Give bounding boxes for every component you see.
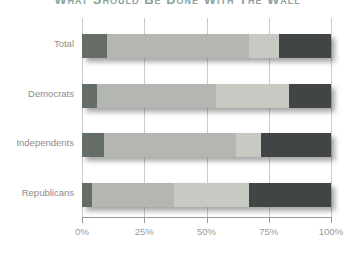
plot-area <box>82 18 331 217</box>
gridline-100% <box>331 18 332 217</box>
axis-tick-0% <box>82 217 83 223</box>
axis-tick-75% <box>269 217 270 223</box>
bar-total-segment-2 <box>107 34 249 58</box>
bar-independents-segment-1 <box>82 133 104 157</box>
category-label-republicans: Republicans <box>0 187 74 198</box>
bar-democrats-segment-4 <box>289 84 331 108</box>
bar-republicans-segment-3 <box>174 183 249 207</box>
chart-title-text: What Should Be Done With The Wall <box>54 0 301 6</box>
bar-independents-segment-4 <box>261 133 331 157</box>
bar-total-segment-1 <box>82 34 107 58</box>
bar-total-segment-4 <box>279 34 331 58</box>
stacked-bar-total <box>82 34 331 58</box>
bar-republicans-segment-4 <box>249 183 331 207</box>
stacked-bar-democrats <box>82 84 331 108</box>
bar-democrats-segment-2 <box>97 84 217 108</box>
tick-label-0%: 0% <box>75 226 89 237</box>
axis-tick-25% <box>144 217 145 223</box>
axis-tick-50% <box>207 217 208 223</box>
bar-democrats-segment-1 <box>82 84 97 108</box>
tick-label-100%: 100% <box>319 226 343 237</box>
tick-label-50%: 50% <box>197 226 216 237</box>
category-label-independents: Independents <box>0 137 74 148</box>
bar-independents-segment-3 <box>236 133 261 157</box>
category-label-total: Total <box>0 38 74 49</box>
bar-republicans-segment-1 <box>82 183 92 207</box>
tick-label-25%: 25% <box>135 226 154 237</box>
axis-tick-100% <box>331 217 332 223</box>
stacked-bar-independents <box>82 133 331 157</box>
chart-canvas: What Should Be Done With The Wall 0%25%5… <box>0 0 355 255</box>
tick-label-75%: 75% <box>259 226 278 237</box>
bar-democrats-segment-3 <box>216 84 288 108</box>
bar-republicans-segment-2 <box>92 183 174 207</box>
chart-title-clipped: What Should Be Done With The Wall <box>0 0 355 6</box>
stacked-bar-republicans <box>82 183 331 207</box>
bar-total-segment-3 <box>249 34 279 58</box>
bar-independents-segment-2 <box>104 133 236 157</box>
category-label-democrats: Democrats <box>0 88 74 99</box>
